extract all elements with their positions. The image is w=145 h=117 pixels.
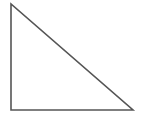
right-triangle-shape	[11, 4, 133, 110]
right-triangle-svg: Right triangle A right triangle with the…	[0, 0, 145, 117]
figure-canvas: Right triangle A right triangle with the…	[0, 0, 145, 117]
